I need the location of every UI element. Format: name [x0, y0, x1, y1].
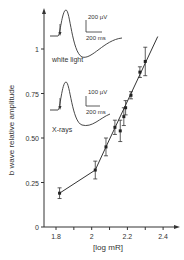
svg-text:200 ms: 200 ms — [86, 35, 106, 41]
svg-text:white light: white light — [51, 56, 83, 64]
svg-text:1.8: 1.8 — [51, 233, 61, 240]
svg-text:0.25: 0.25 — [25, 180, 39, 187]
svg-text:0: 0 — [35, 224, 39, 231]
y-axis-label: b wave relative amplitude — [7, 84, 16, 175]
svg-text:200 µV: 200 µV — [88, 14, 107, 20]
svg-text:2: 2 — [90, 233, 94, 240]
svg-text:100 µV: 100 µV — [88, 89, 107, 95]
x-axis-arrow-icon — [174, 225, 180, 229]
svg-text:2.4: 2.4 — [158, 233, 168, 240]
y-ticks: 00.250.500.751 — [25, 46, 44, 231]
svg-text:2.2: 2.2 — [123, 233, 133, 240]
y-axis-arrow-icon — [42, 8, 46, 14]
x-ticks: 1.822.22.4 — [51, 227, 168, 240]
svg-text:1: 1 — [35, 46, 39, 53]
inset-x-rays: 100 µV 200 ms X-rays — [50, 82, 110, 134]
svg-text:X-rays: X-rays — [52, 126, 73, 134]
svg-text:0.50: 0.50 — [25, 135, 39, 142]
svg-text:0.75: 0.75 — [25, 91, 39, 98]
svg-text:200 ms: 200 ms — [86, 109, 106, 115]
x-axis-label: [log mR] — [93, 243, 123, 252]
chart: 00.250.500.751 1.822.22.4 b wave relativ… — [0, 0, 184, 260]
inset-white-light: 200 µV 200 ms white light — [50, 10, 122, 64]
